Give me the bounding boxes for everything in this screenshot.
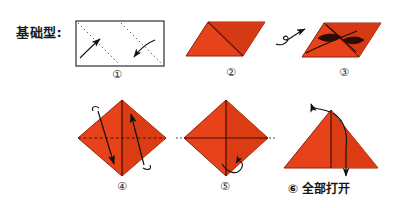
step-6-instruction-text: 全部打开 (302, 182, 350, 196)
step-4-hook-bottom (143, 165, 151, 169)
step-4-hook-top (92, 107, 99, 111)
step-number-4: ④ (100, 180, 144, 193)
step-3-figure (302, 23, 381, 57)
step-6-figure (284, 104, 378, 176)
step-number-1: ① (95, 68, 139, 81)
step-number-5: ⑤ (203, 180, 247, 193)
step-4-figure (78, 100, 166, 176)
step-1-figure (76, 21, 164, 66)
step-5-figure (176, 100, 277, 176)
step-1-rectangle (76, 21, 164, 66)
step-6-caption: ⑥ 全部打开 (288, 179, 350, 196)
step-number-2: ② (209, 66, 253, 79)
origami-instruction-diagram: 基础型: (0, 0, 402, 208)
flip-over-arrow-2-to-3 (276, 29, 305, 45)
step-number-3: ③ (322, 66, 366, 79)
step-2-figure (186, 22, 265, 56)
step-number-6: ⑥ (288, 182, 298, 196)
step-6-arrow-up (311, 104, 330, 112)
diagram-canvas (0, 0, 402, 208)
